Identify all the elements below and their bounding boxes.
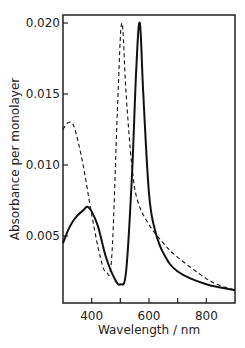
y-axis-label: Absorbance per monolayer bbox=[8, 78, 22, 241]
y-tick-label: 0.005 bbox=[26, 229, 60, 243]
solid-curve bbox=[63, 23, 235, 290]
x-tick-label: 800 bbox=[195, 309, 218, 323]
y-tick-label: 0.010 bbox=[26, 158, 60, 172]
x-tick-label: 600 bbox=[138, 309, 161, 323]
y-axis-ticks: 0.0050.0100.0150.020 bbox=[26, 16, 68, 243]
x-axis-label: Wavelength / nm bbox=[98, 323, 200, 337]
absorbance-chart: 0.0050.0100.0150.020 400600800 Wavelengt… bbox=[0, 0, 245, 348]
y-tick-label: 0.020 bbox=[26, 16, 60, 30]
plot-frame bbox=[63, 15, 235, 303]
dashed-curve bbox=[63, 23, 235, 290]
x-axis-ticks: 400600800 bbox=[80, 298, 218, 323]
y-tick-label: 0.015 bbox=[26, 87, 60, 101]
data-series bbox=[63, 23, 235, 290]
x-tick-label: 400 bbox=[80, 309, 103, 323]
